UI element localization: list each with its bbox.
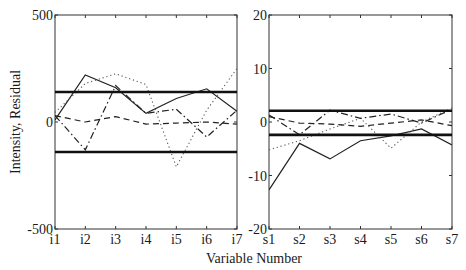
- y-tick-label: 0: [260, 115, 267, 130]
- y-tick-label: -20: [248, 222, 267, 237]
- right-panel: s1s2s3s4s5s6s7-20-1001020: [248, 8, 458, 247]
- x-axis-label: Variable Number: [206, 251, 302, 266]
- series-dashed: [55, 116, 237, 125]
- x-tick-label: s6: [415, 232, 427, 247]
- x-tick-label: s5: [385, 232, 397, 247]
- axes-frame: [269, 15, 452, 229]
- series-dash-dot: [55, 86, 237, 150]
- x-tick-label: i2: [80, 232, 91, 247]
- y-tick-label: 0: [46, 115, 53, 130]
- y-tick-label: -10: [248, 169, 267, 184]
- axes-frame: [55, 15, 237, 229]
- series-solid: [269, 129, 452, 190]
- x-tick-label: i7: [232, 232, 243, 247]
- x-tick-label: s2: [293, 232, 305, 247]
- x-tick-label: s4: [354, 232, 366, 247]
- x-tick-label: i3: [110, 232, 121, 247]
- y-tick-label: -500: [27, 222, 53, 237]
- series-solid: [55, 75, 237, 120]
- x-tick-label: s3: [324, 232, 336, 247]
- y-axis-label: Intensity, Residual: [8, 70, 23, 174]
- y-tick-label: 500: [32, 8, 53, 23]
- chart-figure: i1i2i3i4i5i6i7-5000500 s1s2s3s4s5s6s7-20…: [0, 0, 466, 270]
- x-tick-label: i5: [171, 232, 182, 247]
- y-tick-label: 10: [253, 62, 267, 77]
- x-tick-label: i6: [201, 232, 212, 247]
- left-panel: i1i2i3i4i5i6i7-5000500: [27, 8, 242, 247]
- x-tick-label: s7: [446, 232, 458, 247]
- series-dotted: [269, 108, 452, 150]
- x-tick-label: i4: [141, 232, 152, 247]
- y-tick-label: 20: [253, 8, 267, 23]
